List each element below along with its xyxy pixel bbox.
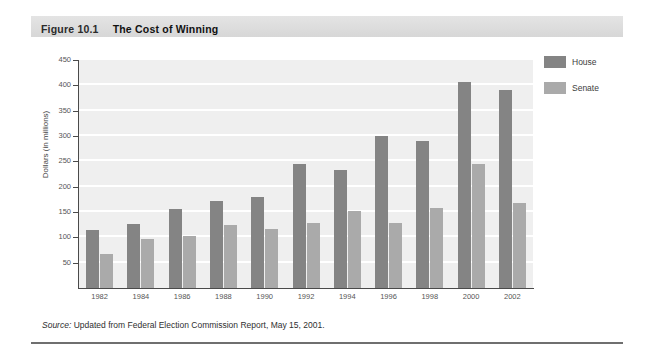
bar-group (458, 60, 485, 288)
bar-group (210, 60, 237, 288)
x-axis-line (78, 288, 534, 289)
page-title: The Cost of Winning (113, 23, 219, 35)
bar-senate (307, 223, 320, 288)
bar-house (334, 170, 347, 288)
y-tick-label: 250 (31, 157, 71, 165)
x-tick-label: 2000 (450, 292, 491, 301)
legend-swatch-house-icon (544, 56, 566, 68)
bar-senate (348, 211, 361, 288)
bar-house (499, 90, 512, 288)
x-tick-label: 1996 (368, 292, 409, 301)
y-tick-label: 100 (31, 233, 71, 241)
bar-group (375, 60, 402, 288)
y-tick-mark (73, 85, 78, 86)
bar-house (375, 136, 388, 288)
y-tick-mark (73, 212, 78, 213)
bottom-rule (31, 342, 623, 344)
legend-item-house: House (544, 55, 622, 69)
y-tick-label: 350 (31, 107, 71, 115)
bar-senate (430, 208, 443, 288)
y-tick-label: 450 (31, 56, 71, 64)
x-tick-label: 1998 (409, 292, 450, 301)
y-tick-mark (73, 161, 78, 162)
legend-swatch-senate-icon (544, 82, 566, 94)
bar-senate (513, 203, 526, 288)
bar-group (334, 60, 361, 288)
y-tick-label: 50 (31, 259, 71, 267)
bar-senate (389, 223, 402, 288)
x-tick-label: 1986 (162, 292, 203, 301)
y-tick-label-text: 250 (37, 157, 71, 165)
y-tick-label: 400 (31, 81, 71, 89)
bar-senate (100, 254, 113, 288)
source-note: Source: Updated from Federal Election Co… (42, 320, 325, 330)
bar-house (127, 224, 140, 288)
bar-house (86, 230, 99, 288)
bar-senate (183, 236, 196, 288)
chart-legend: House Senate (544, 55, 622, 107)
y-tick-mark (73, 136, 78, 137)
figure-header: Figure 10.1The Cost of Winning (31, 16, 623, 37)
legend-item-senate: Senate (544, 81, 622, 95)
x-tick-label: 1988 (203, 292, 244, 301)
bar-senate (224, 225, 237, 288)
y-tick-label: 300 (31, 132, 71, 140)
figure-header-text: Figure 10.1The Cost of Winning (41, 19, 218, 37)
bar-house (416, 141, 429, 288)
x-tick-label: 1990 (244, 292, 285, 301)
bar-house (293, 164, 306, 288)
legend-label-house: House (572, 56, 597, 68)
figure-number: Figure 10.1 (41, 23, 99, 35)
bar-house (169, 209, 182, 288)
chart: Dollars (in millions) 501001502002503003… (31, 45, 623, 303)
bar-group (127, 60, 154, 288)
source-text: Updated from Federal Election Commission… (71, 320, 324, 330)
bar-senate (265, 229, 278, 288)
bar-group (86, 60, 113, 288)
y-tick-label-text: 350 (37, 107, 71, 115)
y-tick-mark (73, 60, 78, 61)
y-tick-label-text: 100 (37, 233, 71, 241)
y-tick-mark (73, 187, 78, 188)
legend-label-senate: Senate (572, 82, 599, 94)
bar-senate (472, 164, 485, 288)
bar-house (458, 82, 471, 288)
y-tick-label-text: 50 (37, 259, 71, 267)
x-tick-label: 2002 (492, 292, 533, 301)
bar-house (251, 197, 264, 288)
y-tick-label-text: 450 (37, 56, 71, 64)
figure-container: Figure 10.1The Cost of Winning Dollars (… (0, 0, 654, 353)
bar-group (251, 60, 278, 288)
x-tick-label: 1992 (285, 292, 326, 301)
x-tick-label: 1984 (120, 292, 161, 301)
y-tick-label-text: 200 (37, 183, 71, 191)
bar-house (210, 201, 223, 288)
x-tick-label: 1982 (79, 292, 120, 301)
bar-group (416, 60, 443, 288)
bar-group (293, 60, 320, 288)
y-tick-label: 200 (31, 183, 71, 191)
x-tick-label: 1994 (327, 292, 368, 301)
y-tick-label-text: 300 (37, 132, 71, 140)
bar-senate (141, 239, 154, 288)
y-tick-mark (73, 111, 78, 112)
source-label: Source: (42, 320, 71, 330)
y-tick-label: 150 (31, 208, 71, 216)
y-tick-label-text: 150 (37, 208, 71, 216)
y-tick-mark (73, 263, 78, 264)
bar-series-group (79, 60, 533, 288)
y-tick-label-text: 400 (37, 81, 71, 89)
y-tick-mark (73, 237, 78, 238)
bar-group (169, 60, 196, 288)
bar-group (499, 60, 526, 288)
